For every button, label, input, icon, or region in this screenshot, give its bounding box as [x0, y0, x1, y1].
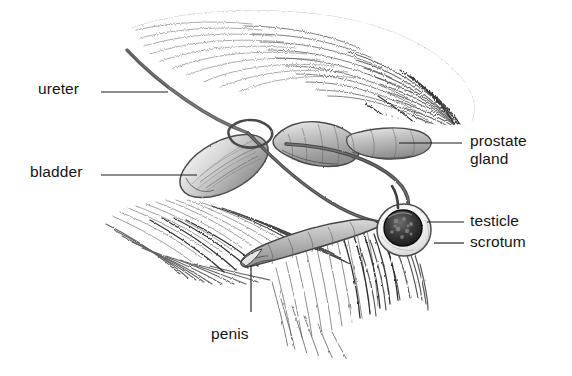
anatomy-figure: ureter bladder prostate gland testicle s…	[0, 0, 572, 376]
testicle	[384, 210, 422, 246]
figure-background	[0, 0, 572, 376]
label-scrotum: scrotum	[470, 233, 526, 251]
anatomy-illustration	[0, 0, 572, 376]
label-penis: penis	[211, 325, 249, 343]
label-ureter: ureter	[38, 80, 79, 98]
label-prostate-gland-line1: prostate	[470, 132, 527, 150]
label-bladder: bladder	[30, 163, 82, 181]
label-testicle: testicle	[470, 212, 519, 230]
label-prostate-gland-line2: gland	[470, 150, 508, 168]
